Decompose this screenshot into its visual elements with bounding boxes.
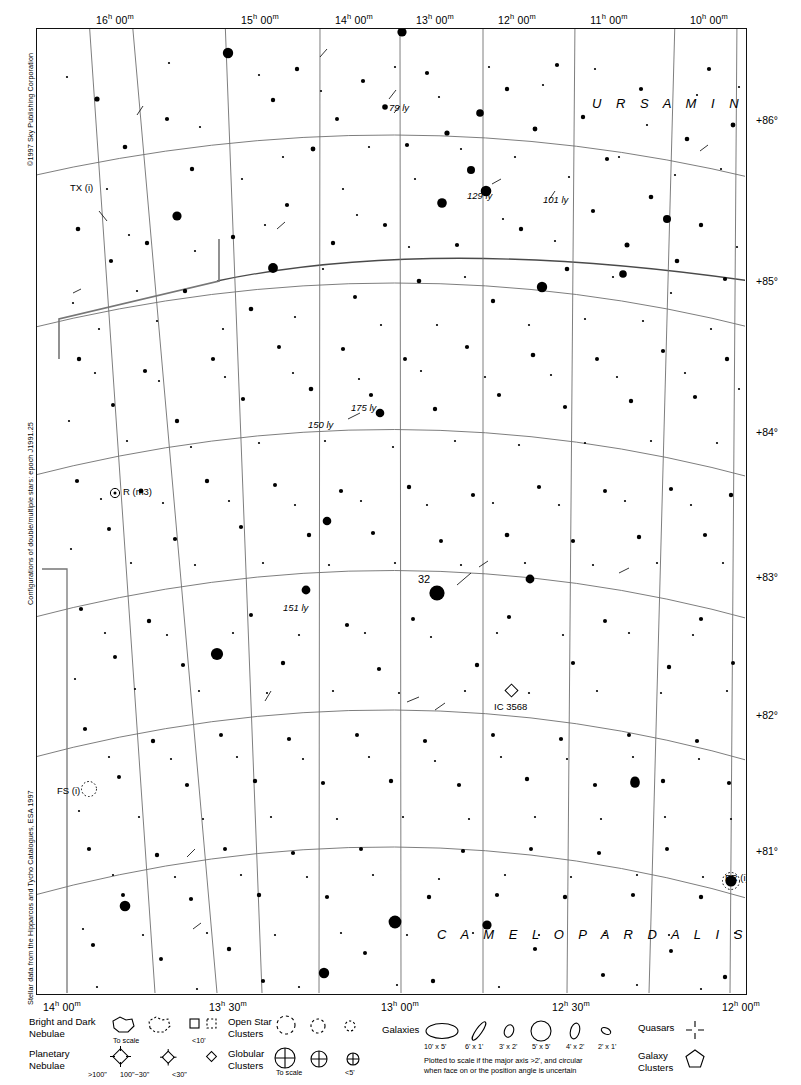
legend-globular-clusters-label: Globular Clusters	[228, 1048, 264, 1071]
legend-quasars-label: Quasars	[638, 1022, 674, 1034]
planetary-nebula-large-icon	[108, 1046, 136, 1070]
galaxy-icon-2x1	[598, 1024, 616, 1040]
legend-galaxy-size-2: 3' x 2'	[499, 1042, 517, 1051]
globular-cluster-small-icon	[344, 1050, 364, 1070]
constellation-label-camelopardalis: C A M E L O P A R D A L I S	[437, 927, 747, 942]
double-star-ticks	[73, 49, 708, 929]
legend-galaxy-size-4: 4' x 2'	[566, 1042, 584, 1051]
chart-legend: Bright and Dark Nebulae To scale <10' Pl…	[0, 1008, 801, 1085]
legend-bright-dark-small-sub: <10'	[192, 1036, 206, 1045]
dec-tick: +84°	[756, 426, 778, 438]
star-distance-label-101ly: 101 ly	[543, 194, 568, 205]
dec-tick: +81°	[756, 845, 778, 857]
ra-grid-lines	[89, 29, 737, 993]
small-nebula-icon	[189, 1016, 223, 1032]
star-distance-label-175ly: 175 ly	[351, 402, 376, 413]
galaxy-cluster-icon	[684, 1048, 708, 1072]
legend-open-clusters-label: Open Star Clusters	[228, 1016, 272, 1039]
legend-planetary-nebulae-label: Planetary Nebulae	[29, 1048, 70, 1071]
globular-cluster-large-icon	[272, 1046, 300, 1070]
variable-star-label-tx: TX (i)	[70, 182, 93, 193]
legend-galaxies-note: Plotted to scale if the major axis >2', …	[424, 1056, 583, 1075]
sky-map[interactable]: U R S A M I N O R C A M E L O P A R D A …	[36, 28, 747, 995]
variable-star-label-fs: FS (i)	[57, 785, 80, 796]
legend-bright-dark-nebulae-label: Bright and Dark Nebulae	[29, 1016, 96, 1039]
planetary-nebula-small-icon	[202, 1049, 224, 1069]
ra-tick-top: 14h 00m	[335, 12, 373, 26]
dark-nebula-icon	[146, 1014, 176, 1036]
open-cluster-medium-icon	[308, 1016, 330, 1036]
variable-star-label-r-m3: R (m3)	[123, 486, 152, 497]
legend-galaxy-size-0: 10' x 5'	[424, 1042, 446, 1051]
star-field	[66, 29, 740, 990]
ra-tick-top: 15h 00m	[241, 12, 279, 26]
ra-tick-top: 11h 00m	[590, 12, 627, 26]
dec-tick: +83°	[756, 571, 778, 583]
legend-bright-dark-toscale-sub: To scale	[113, 1036, 139, 1045]
legend-galaxy-size-5: 2' x 1'	[598, 1042, 616, 1051]
open-cluster-large-icon	[274, 1014, 300, 1036]
star-distance-label-151ly: 151 ly	[283, 602, 308, 613]
double-star-symbol-R	[110, 488, 119, 497]
planetary-nebula-ic3568	[505, 684, 518, 697]
star-distance-label-129ly: 129 ly	[467, 190, 492, 201]
legend-pn-sub-3: <30"	[172, 1070, 187, 1079]
galaxy-icon-10x5	[424, 1020, 462, 1042]
star-label-32: 32	[418, 573, 430, 585]
galaxy-icon-4x2	[566, 1020, 586, 1042]
legend-galaxy-clusters-label: Galaxy Clusters	[638, 1050, 673, 1073]
bright-nebula-icon	[110, 1014, 140, 1036]
legend-galaxy-size-3: 5' x 5'	[532, 1042, 550, 1051]
quasar-icon	[684, 1020, 706, 1040]
ra-tick-top: 12h 00m	[498, 12, 536, 26]
dec-tick: +85°	[756, 275, 778, 287]
open-cluster-small-icon	[342, 1018, 360, 1036]
legend-gc-toscale-sub: To scale	[276, 1068, 302, 1077]
star-distance-label-79ly: 79 ly	[389, 102, 409, 113]
object-label-ic3568: IC 3568	[494, 701, 527, 712]
ra-tick-top: 13h 00m	[416, 12, 454, 26]
stellar-data-credit: Stellar data from the Hipparcos and Tych…	[26, 790, 35, 1005]
configurations-credit: Configurations of double/multiple stars:…	[26, 422, 35, 605]
constellation-boundary	[42, 239, 219, 993]
copyright-credit: ©1997 Sky Publishing Corporation	[26, 53, 35, 166]
galaxy-icon-3x2	[500, 1022, 520, 1042]
constellation-label-ursa-minor: U R S A M I N O R	[592, 96, 747, 111]
legend-galaxies-label: Galaxies	[382, 1024, 419, 1036]
dec-tick: +86°	[756, 114, 778, 126]
variable-star-label-fr: FR (i)	[725, 872, 747, 883]
planetary-nebula-medium-icon	[156, 1048, 182, 1070]
dec-grid-line-major	[217, 258, 745, 282]
galaxy-icon-5x5	[528, 1018, 556, 1044]
legend-galaxy-size-1: 6' x 1'	[465, 1042, 483, 1051]
ra-tick-top: 16h 00m	[96, 12, 134, 26]
legend-gc-small-sub: <5'	[345, 1068, 355, 1077]
legend-pn-sub-1: >100"	[88, 1070, 107, 1079]
star-distance-label-150ly: 150 ly	[308, 419, 333, 430]
ra-tick-top: 10h 00m	[690, 12, 728, 26]
dec-grid-lines	[37, 135, 745, 901]
dec-tick: +82°	[756, 709, 778, 721]
galaxy-icon-6x1	[468, 1018, 490, 1044]
variable-star-markers	[82, 782, 740, 890]
star-chart-page: ©1997 Sky Publishing Corporation Configu…	[0, 0, 801, 1085]
globular-cluster-medium-icon	[308, 1048, 332, 1070]
legend-pn-sub-2: 100"−30"	[120, 1070, 149, 1079]
